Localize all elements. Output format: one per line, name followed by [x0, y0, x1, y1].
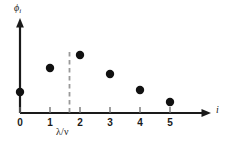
y-axis-label-subscript: i — [19, 7, 21, 15]
x-axis-label: i — [216, 104, 219, 115]
data-point-1 — [46, 64, 54, 72]
x-tick-label-0: 0 — [10, 117, 30, 128]
data-point-0 — [16, 88, 24, 96]
x-tick-label-5: 5 — [160, 117, 180, 128]
data-point-2 — [76, 51, 84, 59]
threshold-label: λ/ν — [56, 126, 69, 137]
data-points — [16, 51, 174, 106]
x-tick-label-3: 3 — [100, 117, 120, 128]
poisson-distribution-figure: ϕi i 0 1 2 3 4 5 λ/ν — [0, 0, 228, 147]
data-point-5 — [166, 98, 174, 106]
x-tick-label-4: 4 — [130, 117, 150, 128]
data-point-4 — [136, 86, 144, 94]
y-axis-label: ϕi — [14, 2, 21, 15]
x-axis-arrowhead — [202, 109, 212, 117]
y-axis-arrowhead — [16, 18, 24, 28]
data-point-3 — [106, 70, 114, 78]
x-tick-label-2: 2 — [70, 117, 90, 128]
